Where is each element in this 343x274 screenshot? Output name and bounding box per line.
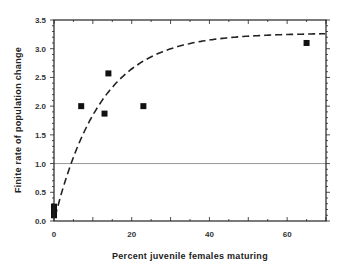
data-point — [102, 111, 108, 117]
chart: 0.00.51.01.52.02.53.03.5 0204060 Percent… — [0, 0, 343, 274]
y-tick-label: 2.0 — [35, 102, 47, 111]
data-point — [140, 103, 146, 109]
data-point — [304, 40, 310, 46]
y-tick-label: 1.0 — [35, 160, 47, 169]
x-axis-title: Percent juvenile females maturing — [112, 251, 268, 261]
x-tick-label: 40 — [205, 230, 214, 239]
data-point — [78, 103, 84, 109]
x-axis: 0204060 — [52, 20, 326, 239]
fitted-curve — [55, 34, 325, 217]
data-point — [105, 70, 111, 76]
y-tick-label: 1.5 — [35, 131, 47, 140]
x-tick-label: 60 — [283, 230, 292, 239]
y-tick-label: 3.0 — [35, 45, 47, 54]
x-tick-label: 20 — [127, 230, 136, 239]
x-tick-label: 0 — [52, 230, 57, 239]
y-tick-label: 3.5 — [35, 16, 47, 25]
plot-frame — [54, 20, 326, 221]
data-points — [51, 40, 310, 218]
y-tick-label: 0.0 — [35, 217, 47, 226]
y-tick-label: 2.5 — [35, 73, 47, 82]
y-axis: 0.00.51.01.52.02.53.03.5 — [35, 16, 330, 226]
y-axis-title: Finite rate of population change — [13, 47, 23, 193]
y-tick-label: 0.5 — [35, 188, 47, 197]
